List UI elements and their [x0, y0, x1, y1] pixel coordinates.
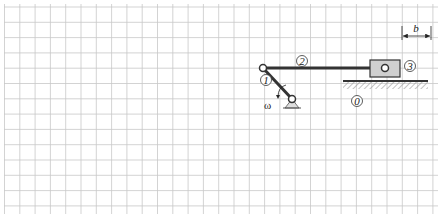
ground-pivot-support	[283, 96, 301, 109]
ground-link-0	[343, 81, 428, 89]
svg-text:0: 0	[354, 95, 360, 107]
svg-text:2: 2	[299, 55, 305, 67]
mechanism-diagram: ω 1 2 3 0 b	[0, 0, 440, 218]
crank-rod-joint	[260, 65, 267, 72]
svg-text:b: b	[413, 22, 419, 34]
svg-text:1: 1	[263, 74, 269, 86]
grid	[4, 4, 438, 214]
label-link-0: 0	[352, 95, 363, 107]
label-link-3: 3	[405, 60, 416, 72]
label-link-2: 2	[297, 55, 308, 67]
svg-text:3: 3	[406, 60, 413, 72]
label-link-1: 1	[261, 74, 272, 86]
slider-pin-joint	[382, 65, 389, 72]
omega-label: ω	[264, 99, 271, 111]
